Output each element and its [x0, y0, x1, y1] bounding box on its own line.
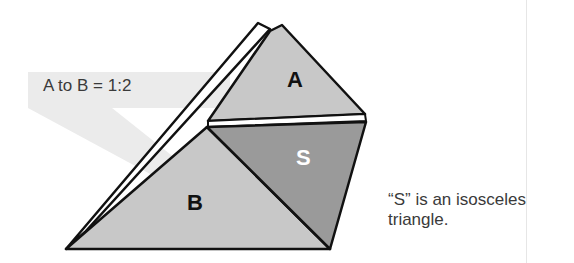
- folded-triangles-diagram: [0, 0, 574, 263]
- isosceles-note-line2: triangle.: [388, 210, 448, 230]
- triangle-b-label: B: [187, 192, 203, 214]
- isosceles-note-line1: “S” is an isosceles: [388, 190, 526, 210]
- triangle-s-label: S: [296, 147, 311, 169]
- ratio-label: A to B = 1:2: [43, 76, 131, 96]
- page-edge-divider: [526, 0, 527, 263]
- triangle-a-label: A: [287, 69, 303, 91]
